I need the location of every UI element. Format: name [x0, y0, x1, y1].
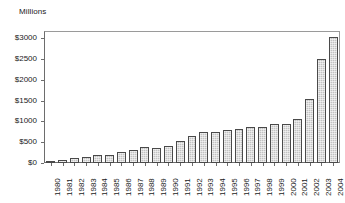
x-tick-mark	[180, 163, 181, 166]
x-tick-label: 1983	[90, 178, 98, 196]
bar-slot	[57, 32, 69, 163]
x-tick-mark	[298, 163, 299, 166]
x-tick-mark	[286, 163, 287, 166]
bars-container	[45, 32, 339, 163]
x-tick-mark	[110, 163, 111, 166]
x-tick-mark	[216, 163, 217, 166]
y-tick-mark	[41, 80, 44, 81]
x-tick-label: 2001	[301, 178, 309, 196]
bar[interactable]	[164, 146, 173, 163]
bar[interactable]	[293, 119, 302, 163]
x-tick-label: 1994	[219, 178, 227, 196]
y-tick-mark	[41, 142, 44, 143]
bar-slot	[292, 32, 304, 163]
x-tick-label: 1995	[231, 178, 239, 196]
bar-slot	[174, 32, 186, 163]
x-tick-label: 1990	[172, 178, 180, 196]
x-tick-mark	[192, 163, 193, 166]
x-tick-label: 2004	[337, 178, 345, 196]
x-tick-mark	[263, 163, 264, 166]
bar-slot	[257, 32, 269, 163]
x-tick-label: 1985	[113, 178, 121, 196]
x-tick-mark	[51, 163, 52, 166]
x-tick-mark	[157, 163, 158, 166]
x-tick-mark	[63, 163, 64, 166]
bar[interactable]	[305, 99, 314, 163]
bar[interactable]	[199, 132, 208, 163]
bar[interactable]	[93, 155, 102, 163]
y-tick-label: $2000	[15, 76, 37, 84]
bar[interactable]	[223, 130, 232, 163]
bar-slot	[186, 32, 198, 163]
x-tick-mark	[98, 163, 99, 166]
bar-slot	[280, 32, 292, 163]
bar[interactable]	[317, 59, 326, 163]
x-tick-mark	[310, 163, 311, 166]
bar[interactable]	[329, 37, 338, 163]
y-tick-label: $500	[19, 138, 37, 146]
bar-slot	[69, 32, 81, 163]
bar-slot	[221, 32, 233, 163]
y-tick-label: $1000	[15, 117, 37, 125]
bar-slot	[104, 32, 116, 163]
x-tick-label: 1987	[137, 178, 145, 196]
x-tick-label: 1981	[66, 178, 74, 196]
bar-slot	[198, 32, 210, 163]
bar-slot	[233, 32, 245, 163]
bar[interactable]	[140, 147, 149, 163]
bar[interactable]	[105, 155, 114, 163]
y-tick-label: $1500	[15, 97, 37, 105]
x-tick-label: 1986	[125, 178, 133, 196]
x-tick-label: 1996	[243, 178, 251, 196]
x-tick-mark	[145, 163, 146, 166]
x-tick-label: 2002	[313, 178, 321, 196]
bar-slot	[80, 32, 92, 163]
bar[interactable]	[152, 148, 161, 163]
bar[interactable]	[270, 124, 279, 163]
bar-slot	[139, 32, 151, 163]
bar[interactable]	[246, 127, 255, 163]
y-tick-mark	[41, 163, 44, 164]
bar-slot	[163, 32, 175, 163]
x-tick-label: 2003	[325, 178, 333, 196]
x-tick-mark	[239, 163, 240, 166]
bar[interactable]	[258, 127, 267, 163]
y-tick-label: $3000	[15, 34, 37, 42]
x-tick-label: 1989	[160, 178, 168, 196]
x-tick-label: 2000	[290, 178, 298, 196]
x-tick-label: 1988	[148, 178, 156, 196]
bar[interactable]	[129, 150, 138, 163]
x-tick-label: 1997	[254, 178, 262, 196]
bar-slot	[268, 32, 280, 163]
x-tick-mark	[227, 163, 228, 166]
y-tick-mark	[41, 38, 44, 39]
x-tick-label: 1998	[266, 178, 274, 196]
bar-slot	[116, 32, 128, 163]
bar[interactable]	[176, 141, 185, 163]
x-tick-mark	[86, 163, 87, 166]
x-tick-label: 1999	[278, 178, 286, 196]
bar[interactable]	[117, 152, 126, 163]
bar[interactable]	[235, 129, 244, 163]
x-tick-mark	[204, 163, 205, 166]
bar-slot	[327, 32, 339, 163]
x-tick-mark	[121, 163, 122, 166]
x-tick-mark	[133, 163, 134, 166]
bar-slot	[45, 32, 57, 163]
x-tick-label: 1984	[101, 178, 109, 196]
x-tick-mark	[333, 163, 334, 166]
y-tick-mark	[41, 59, 44, 60]
bar-slot	[127, 32, 139, 163]
x-tick-label: 1980	[54, 178, 62, 196]
x-tick-label: 1991	[184, 178, 192, 196]
bar[interactable]	[211, 132, 220, 163]
y-tick-label: $0	[28, 159, 37, 167]
bar-chart: Millions $0$500$1000$1500$2000$2500$3000…	[0, 0, 345, 203]
bar[interactable]	[282, 124, 291, 163]
bar-slot	[304, 32, 316, 163]
bar[interactable]	[188, 136, 197, 163]
x-tick-mark	[74, 163, 75, 166]
x-tick-label: 1992	[196, 178, 204, 196]
x-tick-mark	[168, 163, 169, 166]
y-axis: $0$500$1000$1500$2000$2500$3000	[0, 0, 44, 203]
